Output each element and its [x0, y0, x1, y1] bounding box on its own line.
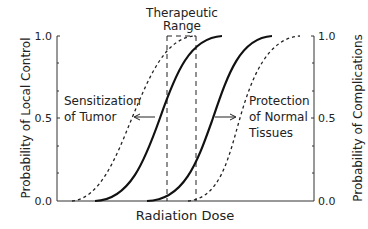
y-left-tick-0: 0.0 — [35, 195, 53, 208]
title-line-1: Therapeutic — [145, 6, 218, 20]
y-right-tick-0: 0.0 — [318, 195, 336, 208]
arrow-left-icon — [134, 114, 155, 120]
annotation-sensitization-2: of Tumor — [64, 110, 117, 124]
y-left-tick-05: 0.5 — [35, 112, 53, 125]
y-left-label: Probability of Local Control — [19, 38, 33, 199]
therapeutic-range-markers — [167, 36, 196, 201]
y-right-tick-05: 0.5 — [318, 112, 336, 125]
arrow-right-icon — [215, 114, 236, 120]
x-label: Radiation Dose — [136, 208, 234, 223]
y-right-tick-1: 1.0 — [318, 30, 336, 43]
title-line-2: Range — [163, 19, 201, 33]
chart: 1.0 0.5 0.0 1.0 0.5 0.0 Probability of L… — [0, 0, 368, 229]
y-left-tick-1: 1.0 — [35, 30, 53, 43]
y-right-label: Probability of Complications — [351, 34, 365, 202]
annotation-sensitization-1: Sensitization — [64, 94, 141, 108]
annotation-protection-2: of Normal — [249, 110, 308, 124]
annotation-protection-1: Protection — [249, 94, 310, 108]
annotation-protection-3: Tissues — [248, 126, 293, 140]
